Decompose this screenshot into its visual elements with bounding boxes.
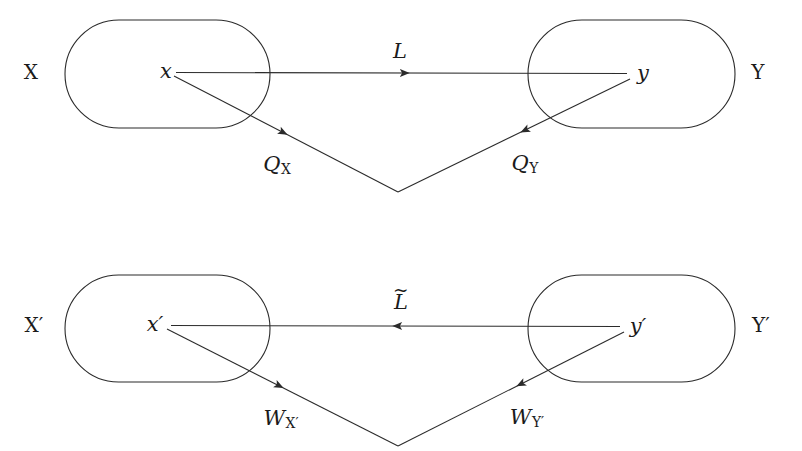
bottom-left-down-arrow-label-sub: X′ (286, 417, 299, 431)
top-left-point-label: x (160, 61, 172, 82)
top-right-point-label: y (637, 63, 649, 84)
top-left-down-arrow-label-sub: X (281, 163, 291, 177)
top-horizontal-arrow-label: L (393, 41, 407, 62)
top-right-down-arrow-label-base: Q (512, 151, 529, 175)
top-right-set-label: Y (751, 62, 764, 82)
bottom-right-set-label: Y′ (752, 315, 770, 335)
bottom-left-point-label: x′ (147, 314, 164, 335)
top-horizontal-arrow-line (176, 73, 627, 74)
top-left-down-arrow-label-base: Q (263, 152, 280, 176)
top-left-set-label: X (24, 62, 38, 82)
bottom-right-down-arrow-label-base: W (510, 405, 532, 429)
diagram-canvas: X x L y Y QX QY X′ x′ ~L y′ Y′ WX′ WY′ (0, 0, 802, 451)
diagram-svg (0, 0, 802, 451)
bottom-right-down-arrow-label: WY′ (510, 407, 544, 430)
top-right-set-shape (528, 20, 735, 128)
bottom-right-point-label: y′ (630, 316, 647, 337)
bottom-right-down-arrow-label-sub: Y′ (532, 416, 544, 430)
bottom-left-down-arrow-label: WX′ (263, 408, 298, 431)
bottom-horizontal-arrow-label: ~L (394, 292, 408, 313)
top-right-down-arrow-label: QY (512, 153, 539, 176)
bottom-horizontal-arrow-label-wrap: ~L (394, 292, 408, 313)
top-left-down-arrow-label: QX (263, 154, 291, 177)
tilde-accent-icon: ~ (393, 280, 408, 298)
bottom-horizontal-arrow-line (171, 326, 620, 327)
bottom-left-set-label: X′ (24, 315, 43, 335)
bottom-left-down-arrow-label-base: W (263, 406, 285, 430)
top-right-down-arrow-label-sub: Y (529, 162, 538, 176)
